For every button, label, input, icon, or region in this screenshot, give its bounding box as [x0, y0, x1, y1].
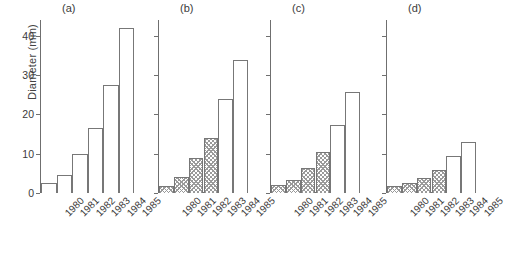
x-axis-labels: 198019811982198319841985: [41, 195, 136, 255]
y-axis-tick: [36, 114, 40, 115]
bar: [119, 28, 135, 193]
y-axis-tick: [154, 114, 158, 115]
panel-d: (d)198019811982198319841985: [386, 0, 478, 258]
bar-group: [387, 20, 478, 193]
bar: [41, 183, 57, 193]
bar: [330, 125, 345, 193]
y-axis-tick: [382, 114, 386, 115]
y-axis-tick: [36, 154, 40, 155]
bar: [271, 185, 286, 193]
bar: [446, 156, 461, 193]
panel-title: (b): [180, 2, 193, 14]
y-axis-tick: [266, 36, 270, 37]
bar: [432, 170, 447, 193]
y-axis-tick: [36, 193, 40, 194]
y-axis-tick: [382, 75, 386, 76]
y-axis-tick: [382, 154, 386, 155]
y-axis-tick-label: 0: [28, 187, 34, 199]
panel-title: (c): [292, 2, 305, 14]
bar: [402, 183, 417, 193]
x-axis-labels: 198019811982198319841985: [159, 195, 250, 255]
bar: [218, 99, 233, 193]
bar: [189, 158, 204, 193]
bar-group: [159, 20, 250, 193]
plot-area: 010203040: [40, 20, 136, 193]
panel-c: (c)198019811982198319841985: [270, 0, 362, 258]
y-axis-tick: [382, 36, 386, 37]
bar: [316, 152, 331, 193]
y-axis-tick-label: 20: [22, 108, 34, 120]
bar: [57, 175, 73, 193]
bar: [345, 92, 360, 193]
y-axis-tick-label: 40: [22, 30, 34, 42]
y-axis-tick: [266, 154, 270, 155]
y-axis-tick: [154, 193, 158, 194]
y-axis-tick: [154, 154, 158, 155]
bar: [461, 142, 476, 193]
y-axis-tick-label: 10: [22, 148, 34, 160]
y-axis-tick: [266, 114, 270, 115]
bar: [286, 180, 301, 193]
y-axis-tick: [154, 36, 158, 37]
bar: [233, 60, 248, 193]
y-axis-tick-label: 30: [22, 69, 34, 81]
y-axis-tick: [154, 75, 158, 76]
x-axis-labels: 198019811982198319841985: [271, 195, 362, 255]
y-axis-tick: [382, 193, 386, 194]
plot-area: [386, 20, 478, 193]
panel-a: (a)010203040198019811982198319841985: [40, 0, 136, 258]
y-axis-tick: [36, 36, 40, 37]
x-axis-labels: 198019811982198319841985: [387, 195, 478, 255]
bar-group: [41, 20, 136, 193]
bar: [103, 85, 119, 193]
y-axis-tick: [266, 193, 270, 194]
panel-b: (b)198019811982198319841985: [158, 0, 250, 258]
y-axis-tick: [266, 75, 270, 76]
bar: [301, 168, 316, 193]
plot-area: [158, 20, 250, 193]
bar: [417, 178, 432, 193]
plot-area: [270, 20, 362, 193]
bar: [174, 177, 189, 194]
bar: [204, 138, 219, 193]
bar: [72, 154, 88, 193]
bar-group: [271, 20, 362, 193]
y-axis-tick: [36, 75, 40, 76]
panel-title: (d): [408, 2, 421, 14]
bar: [159, 186, 174, 193]
bar: [387, 186, 402, 193]
figure-bar-panels: Diameter (mm) (a)01020304019801981198219…: [0, 0, 508, 258]
panel-title: (a): [62, 2, 75, 14]
bar: [88, 128, 104, 193]
